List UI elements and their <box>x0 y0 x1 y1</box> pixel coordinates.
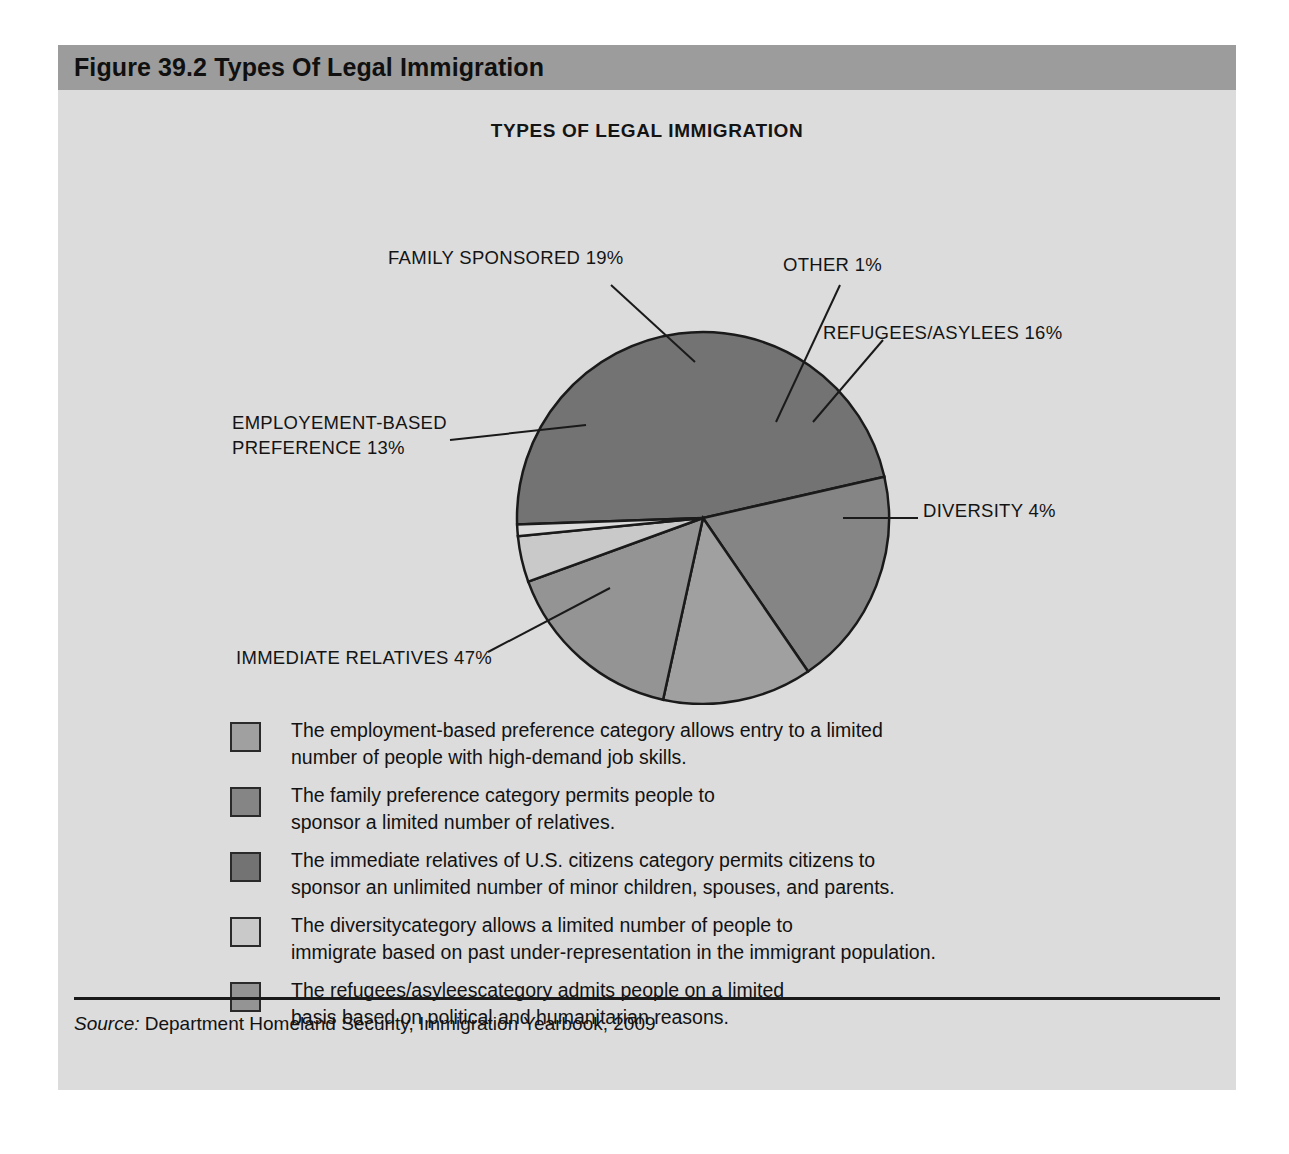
pie-label-refugees-asylees: REFUGEES/ASYLEES 16% <box>823 320 1062 345</box>
legend-text: The family preference category permits p… <box>291 782 715 835</box>
legend-row: The diversitycategory allows a limited n… <box>58 912 1236 965</box>
legend-text: The immediate relatives of U.S. citizens… <box>291 847 895 900</box>
legend-text: The employment-based preference category… <box>291 717 883 770</box>
legend-swatch <box>230 852 261 882</box>
legend-row: The immediate relatives of U.S. citizens… <box>58 847 1236 900</box>
pie-label-employment-based-line1: EMPLOYEMENT-BASED <box>232 410 447 435</box>
pie-label-employment-based: EMPLOYEMENT-BASED PREFERENCE 13% <box>232 410 447 460</box>
pie-label-employment-based-line2: PREFERENCE 13% <box>232 435 447 460</box>
legend: The employment-based preference category… <box>58 717 1236 1042</box>
source-text: Department Homeland Security, Immigratio… <box>139 1013 655 1034</box>
pie-slices <box>517 332 889 704</box>
legend-swatch <box>230 722 261 752</box>
source-line: Source: Department Homeland Security, Im… <box>74 1013 656 1035</box>
pie-label-other: OTHER 1% <box>783 252 882 277</box>
pie-chart-area: FAMILY SPONSORED 19% OTHER 1% REFUGEES/A… <box>58 140 1236 705</box>
figure-panel: Figure 39.2 Types Of Legal Immigration T… <box>58 45 1236 1090</box>
pie-label-diversity: DIVERSITY 4% <box>923 498 1056 523</box>
chart-title: TYPES OF LEGAL IMMIGRATION <box>58 120 1236 142</box>
source-label: Source: <box>74 1013 139 1034</box>
legend-swatch <box>230 787 261 817</box>
legend-swatch <box>230 917 261 947</box>
legend-row: The family preference category permits p… <box>58 782 1236 835</box>
pie-label-immediate-relatives: IMMEDIATE RELATIVES 47% <box>236 645 492 670</box>
figure-header-title: Figure 39.2 Types Of Legal Immigration <box>74 53 544 82</box>
legend-text: The diversitycategory allows a limited n… <box>291 912 936 965</box>
pie-label-family-sponsored: FAMILY SPONSORED 19% <box>388 245 624 270</box>
figure-header-bar: Figure 39.2 Types Of Legal Immigration <box>58 45 1236 90</box>
legend-row: The employment-based preference category… <box>58 717 1236 770</box>
source-divider <box>74 997 1220 1000</box>
